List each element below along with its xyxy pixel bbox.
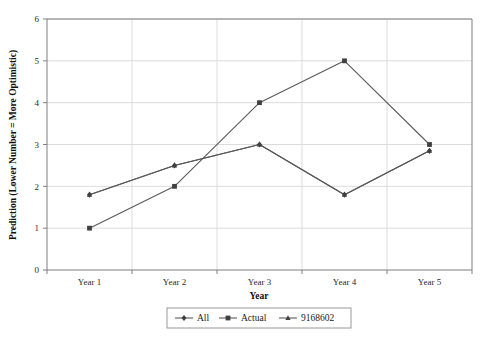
x-axis-tick-label: Year 4 [333,277,357,287]
series-marker-actual [257,100,262,105]
x-axis-tick-label: Year 3 [248,277,272,287]
y-axis-tick-label: 5 [35,56,40,66]
y-axis-tick-label: 0 [35,265,40,275]
chart-canvas: 0123456 Year 1Year 2Year 3Year 4Year 5 P… [0,0,496,341]
y-axis-title: Prediction (Lower Number = More Optimist… [8,50,19,240]
legend-label: Actual [241,313,267,323]
x-axis-tick-label: Year 1 [78,277,101,287]
x-axis-tick-label: Year 2 [163,277,186,287]
series-marker-actual [427,142,432,147]
y-axis-tick-label: 1 [35,223,40,233]
x-axis-title: Year [250,291,270,301]
series-marker-actual [342,58,347,63]
legend-label: 9168602 [301,313,335,323]
series-marker-actual [87,226,92,231]
series-marker-actual [172,184,177,189]
line-chart: 0123456 Year 1Year 2Year 3Year 4Year 5 P… [0,0,496,341]
legend-label: All [197,313,210,323]
y-axis-tick-label: 3 [35,140,40,150]
y-axis-tick-label: 2 [35,182,40,192]
x-axis-tick-labels: Year 1Year 2Year 3Year 4Year 5 [47,270,472,287]
y-axis-tick-label: 6 [35,14,40,24]
y-axis-tick-label: 4 [35,98,40,108]
chart-legend: AllActual9168602 [167,308,351,328]
legend-marker [226,316,231,321]
y-axis-tick-labels: 0123456 [35,14,48,275]
x-axis-tick-label: Year 5 [418,277,442,287]
